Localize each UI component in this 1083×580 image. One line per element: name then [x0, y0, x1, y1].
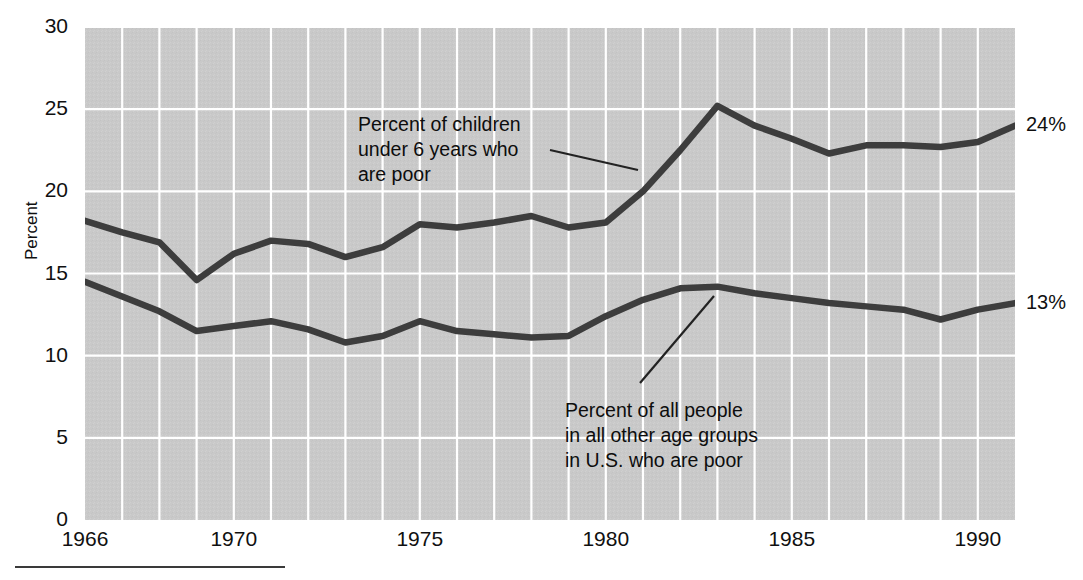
y-tick-10: 10 [18, 343, 68, 367]
lower-annotation-line-2: in all other age groups [565, 423, 758, 448]
lower-annotation-line-3: in U.S. who are poor [565, 448, 758, 473]
y-axis-label: Percent [22, 202, 42, 261]
chart-figure: Percent 302520151050 1966197019751980198… [0, 0, 1083, 580]
y-tick-15: 15 [18, 261, 68, 285]
upper-annotation: Percent of childrenunder 6 years whoare … [358, 112, 521, 187]
upper-annotation-line-1: Percent of children [358, 112, 521, 137]
lower-annotation: Percent of all peoplein all other age gr… [565, 398, 758, 473]
lower-annotation-line-1: Percent of all people [565, 398, 758, 423]
y-tick-5: 5 [18, 425, 68, 449]
x-tick-1970: 1970 [194, 527, 274, 551]
end-label-upper: 24% [1026, 113, 1066, 136]
upper-annotation-line-2: under 6 years who [358, 137, 521, 162]
line-chart-plot [0, 0, 1083, 580]
x-tick-1990: 1990 [938, 527, 1018, 551]
upper-annotation-line-3: are poor [358, 162, 521, 187]
y-tick-25: 25 [18, 96, 68, 120]
x-tick-1966: 1966 [45, 527, 125, 551]
y-tick-20: 20 [18, 178, 68, 202]
x-tick-1975: 1975 [380, 527, 460, 551]
x-tick-1980: 1980 [566, 527, 646, 551]
footer-rule [15, 566, 285, 568]
x-tick-1985: 1985 [752, 527, 832, 551]
y-tick-30: 30 [18, 14, 68, 38]
end-label-lower: 13% [1026, 291, 1066, 314]
